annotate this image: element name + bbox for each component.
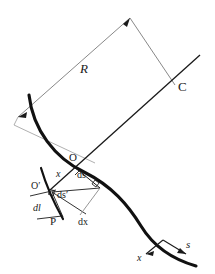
label-delta-dl: dl: [33, 203, 41, 213]
diagram-canvas: [0, 0, 215, 274]
label-center-c: C: [178, 80, 187, 93]
line-o-to-c: [50, 55, 200, 190]
radius-line-base: [14, 125, 95, 163]
label-offset-x: x: [56, 169, 60, 179]
arrow-top-head: [123, 18, 130, 27]
radius-line-right: [130, 18, 175, 85]
label-point-o: O: [69, 152, 77, 163]
label-arc-ds: ds: [77, 170, 86, 180]
radius-line-left: [18, 18, 130, 117]
label-axis-s: s: [186, 239, 190, 250]
curvature-diagram-figure: R C O O′ P ds ds′ dl dx x x s: [0, 0, 215, 274]
label-arc-ds-prime: ds′: [57, 190, 68, 200]
label-point-p: P: [50, 216, 56, 227]
segment-dx: [80, 188, 100, 215]
main-curve: [29, 95, 196, 266]
label-point-o-prime: O′: [31, 181, 40, 191]
label-axis-x: x: [137, 253, 141, 263]
label-delta-dx: dx: [78, 217, 88, 227]
radius-construction-lines: [14, 18, 175, 163]
label-radius: R: [80, 62, 88, 75]
radius-line-left-cap: [14, 117, 18, 125]
